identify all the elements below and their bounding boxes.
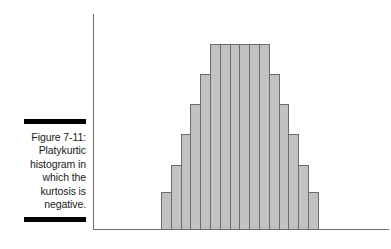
- histogram-bars: [161, 14, 318, 229]
- figure-caption-block: Figure 7-11: Platykurtic histogram in wh…: [24, 119, 86, 222]
- caption-rule-top: [24, 119, 86, 124]
- figure-number-label: Figure 7-11:: [31, 131, 86, 143]
- x-axis-line: [93, 229, 389, 230]
- caption-line-1: Platykurtic: [24, 144, 86, 157]
- caption-line-3: which the: [24, 171, 86, 184]
- caption-line-2: histogram in: [24, 158, 86, 171]
- caption-line-4: kurtosis is: [24, 185, 86, 198]
- figure-page: Figure 7-11: Platykurtic histogram in wh…: [0, 0, 391, 249]
- plot-area: [93, 14, 389, 229]
- histogram-chart: [93, 14, 389, 230]
- caption-rule-bottom: [24, 217, 86, 222]
- caption-line-5: negative.: [24, 198, 86, 211]
- figure-caption-text: Figure 7-11: Platykurtic histogram in wh…: [24, 131, 86, 211]
- histogram-bar: [308, 192, 319, 229]
